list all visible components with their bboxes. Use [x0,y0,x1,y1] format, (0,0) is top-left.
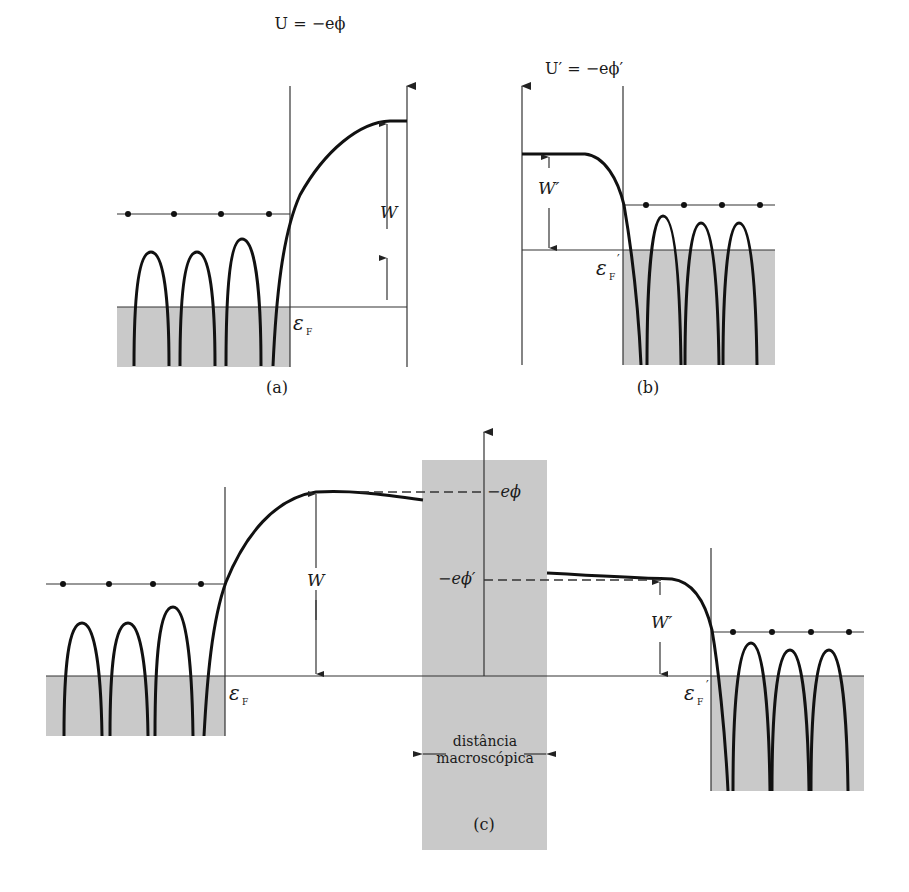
figure-canvas: W U = −eϕ ε F (a) W′ U′ = −eϕ′ ε F ′ (b) [0,0,909,892]
surface-potential-curve-right [547,573,728,791]
potential-title-a: U = −eϕ [275,14,346,33]
level-label-left: −eϕ [487,482,521,501]
ion-dot [846,629,852,635]
potential-title-b: U′ = −eϕ′ [545,59,623,78]
ion-dot [60,581,66,587]
ion-dot [769,629,775,635]
ion-dot [218,211,224,217]
fermi-energy-label-left: ε [229,681,240,705]
ion-dot [171,211,177,217]
caption-b: (b) [637,378,660,397]
panel-b: W′ U′ = −eϕ′ ε F ′ (b) [522,59,775,397]
ion-dot [150,581,156,587]
fermi-subscript-a: F [306,327,312,337]
fermi-subscript-b: F [609,272,615,282]
fermi-subscript-left: F [242,697,248,707]
filled-electron-sea-a [117,307,290,367]
work-function-label-left: W [307,570,326,590]
ion-dot [106,581,112,587]
ion-dot [266,211,272,217]
fermi-energy-label-right: ε [684,681,695,705]
fermi-energy-label-b: ε [596,256,607,280]
ion-dot [730,629,736,635]
fermi-prime-right: ′ [706,679,709,693]
caption-a: (a) [266,378,288,397]
ion-dot [198,581,204,587]
ion-dot [643,202,649,208]
panel-a: W U = −eϕ ε F (a) [117,14,407,397]
region-label-line2: macroscópica [436,750,534,766]
fermi-energy-label-a: ε [293,311,304,335]
panel-c: W −eϕ W′ −eϕ′ ε F ε F ′ distância macros… [46,432,864,850]
fermi-prime-b: ′ [617,253,620,267]
ion-dot [681,202,687,208]
caption-c: (c) [473,815,494,834]
ion-dot [125,211,131,217]
ion-dot [719,202,725,208]
work-function-label-b: W′ [538,178,559,198]
work-function-label-a: W [380,202,399,222]
filled-electron-sea-left [46,676,225,736]
ion-dot [757,202,763,208]
region-label-line1: distância [453,733,517,749]
level-label-right: −eϕ′ [438,569,476,588]
work-function-label-right: W′ [651,612,672,632]
ion-dot [808,629,814,635]
fermi-subscript-right: F [697,697,703,707]
